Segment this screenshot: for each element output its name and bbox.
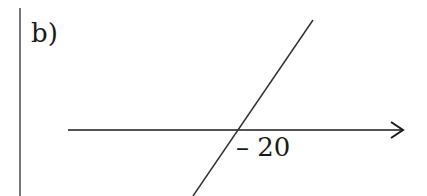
part-label: b) <box>31 20 58 46</box>
graph-line <box>193 20 313 196</box>
line-graph-sketch <box>0 0 427 196</box>
x-intercept-label: – 20 <box>236 134 290 160</box>
